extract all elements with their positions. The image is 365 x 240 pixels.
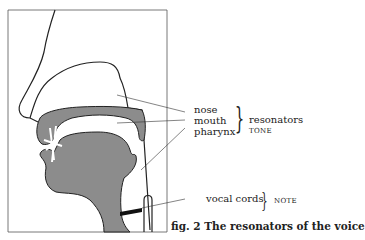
label-tone: TONE: [249, 126, 272, 137]
label-resonators: resonators: [249, 114, 303, 125]
label-pharynx: pharynx: [194, 126, 235, 137]
figure-caption: fig. 2 The resonators of the voice: [171, 220, 365, 232]
brace-note: }: [261, 189, 267, 211]
label-vocal-cords: vocal cords: [206, 193, 264, 204]
label-note: NOTE: [274, 196, 297, 207]
label-nose: nose: [194, 104, 218, 115]
label-mouth: mouth: [194, 115, 226, 126]
brace-resonators: }: [235, 107, 245, 129]
